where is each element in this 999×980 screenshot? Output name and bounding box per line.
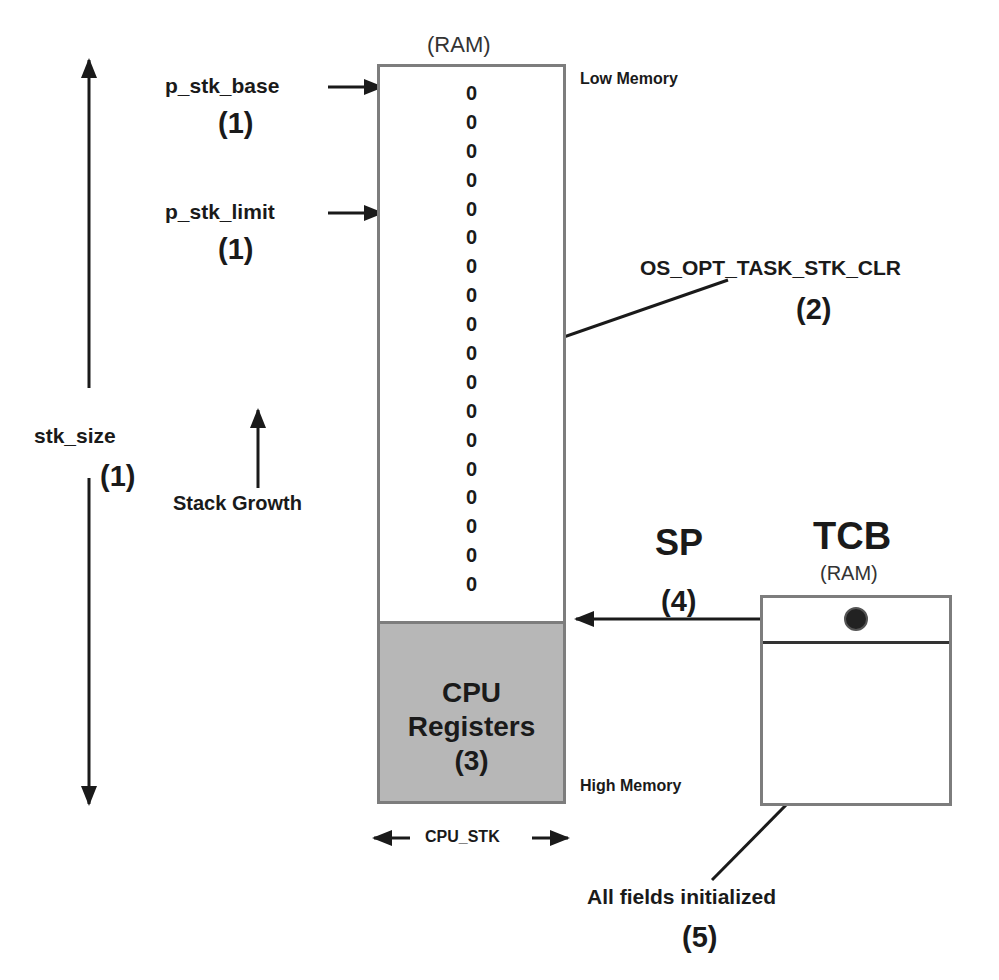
p-stk-limit-label: p_stk_limit xyxy=(165,200,275,224)
stack-entry: 0 xyxy=(380,195,563,224)
cpu-registers-line2: Registers xyxy=(380,710,563,744)
stk-clr-option-num: (2) xyxy=(796,293,831,326)
stack-entry: 0 xyxy=(380,281,563,310)
tcb-ram-label: (RAM) xyxy=(820,562,878,585)
p-stk-base-label: p_stk_base xyxy=(165,74,279,98)
stack-entry: 0 xyxy=(380,397,563,426)
stack-entry: 0 xyxy=(380,570,563,599)
stk-size-label: stk_size xyxy=(34,424,116,448)
stack-entry: 0 xyxy=(380,541,563,570)
sp-num: (4) xyxy=(661,585,696,618)
stack-entry: 0 xyxy=(380,310,563,339)
stack-entry: 0 xyxy=(380,223,563,252)
stack-entry: 0 xyxy=(380,166,563,195)
stack-entry: 0 xyxy=(380,252,563,281)
task-stack: 0 0 0 0 0 0 0 0 0 0 0 0 0 0 0 0 0 0 CPU … xyxy=(377,64,566,804)
cpu-stk-width-label: CPU_STK xyxy=(425,828,500,846)
stk-size-num: (1) xyxy=(100,460,135,493)
tcb-title: TCB xyxy=(813,515,891,558)
stack-entry: 0 xyxy=(380,426,563,455)
stack-entry: 0 xyxy=(380,79,563,108)
stack-growth-label: Stack Growth xyxy=(173,492,302,515)
tcb-field-divider xyxy=(763,641,949,644)
stack-entry: 0 xyxy=(380,483,563,512)
p-stk-base-num: (1) xyxy=(218,107,253,140)
stack-entry: 0 xyxy=(380,339,563,368)
stack-ram-label: (RAM) xyxy=(427,32,491,58)
sp-label: SP xyxy=(655,522,703,564)
stack-entry: 0 xyxy=(380,368,563,397)
cleared-stack-entries: 0 0 0 0 0 0 0 0 0 0 0 0 0 0 0 0 0 0 xyxy=(380,79,563,599)
fields-initialized-label: All fields initialized xyxy=(587,885,776,909)
cpu-registers-line1: CPU xyxy=(380,676,563,710)
stk-clr-option-label: OS_OPT_TASK_STK_CLR xyxy=(640,256,901,280)
p-stk-limit-num: (1) xyxy=(218,233,253,266)
stack-entry: 0 xyxy=(380,108,563,137)
tcb-box xyxy=(760,595,952,806)
stack-entry: 0 xyxy=(380,455,563,484)
fields-initialized-num: (5) xyxy=(682,921,717,954)
stack-entry: 0 xyxy=(380,137,563,166)
low-memory-label: Low Memory xyxy=(580,70,678,88)
cpu-registers-num: (3) xyxy=(380,744,563,778)
stack-entry: 0 xyxy=(380,512,563,541)
cpu-registers-block: CPU Registers (3) xyxy=(380,621,563,801)
stack-pointer-field-dot xyxy=(844,607,868,631)
high-memory-label: High Memory xyxy=(580,777,681,795)
